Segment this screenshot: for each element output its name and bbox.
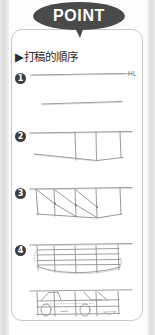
step-marker-2: 2 [15, 131, 26, 142]
horizon-line-label: HL [128, 70, 137, 77]
page-gutter-right [147, 0, 155, 335]
step-marker-4: 4 [15, 245, 26, 256]
step-marker-1: 1 [15, 73, 26, 84]
point-banner: POINT [33, 2, 125, 33]
page-gutter-left [0, 0, 9, 335]
figure-step-4 [28, 240, 148, 288]
section-heading: ▶打稿的順序 [15, 48, 78, 64]
point-banner-label: POINT [33, 2, 125, 30]
figure-step-3 [28, 183, 148, 233]
page-root: POINT ▶打稿的順序 1 2 3 4 HL [0, 0, 155, 335]
figure-step-2 [28, 126, 148, 176]
step-marker-3: 3 [15, 188, 26, 199]
figure-final-car-outline [28, 288, 148, 326]
